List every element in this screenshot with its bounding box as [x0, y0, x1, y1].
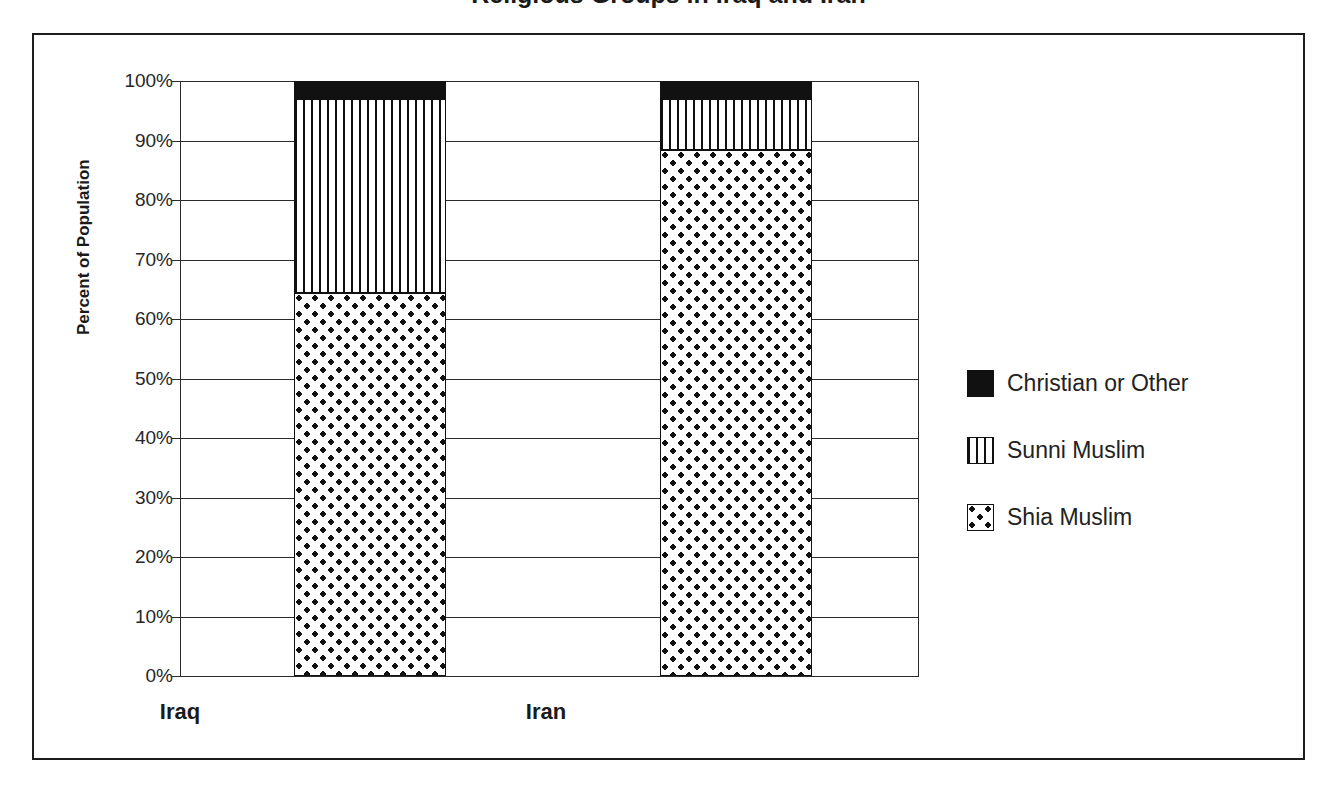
legend-swatch-dots-icon [967, 504, 994, 531]
y-tick-label: 40% [53, 427, 173, 449]
y-tick-label: 10% [53, 606, 173, 628]
legend: Christian or OtherSunni MuslimShia Musli… [967, 350, 1297, 551]
category-label-iran: Iran [426, 699, 666, 725]
tick-mark-80 [172, 200, 180, 201]
tick-mark-90 [172, 141, 180, 142]
y-tick-label: 60% [53, 308, 173, 330]
legend-item-sunni-muslim[interactable]: Sunni Muslim [967, 417, 1297, 484]
bar-segment-iran-shia-muslim[interactable] [660, 150, 812, 676]
tick-mark-0 [172, 676, 180, 677]
tick-mark-10 [172, 617, 180, 618]
legend-label: Christian or Other [1007, 370, 1189, 397]
y-tick-label: 100% [53, 70, 173, 92]
tick-mark-40 [172, 438, 180, 439]
tick-mark-50 [172, 379, 180, 380]
legend-swatch-solid-icon [967, 370, 994, 397]
tick-mark-30 [172, 498, 180, 499]
y-tick-label: 20% [53, 546, 173, 568]
bar-segment-iran-sunni-muslim[interactable] [660, 99, 812, 150]
bar-iraq[interactable] [294, 81, 446, 676]
y-tick-label: 80% [53, 189, 173, 211]
tick-mark-60 [172, 319, 180, 320]
y-tick-label: 70% [53, 249, 173, 271]
chart-frame: Percent of Population 100%90%80%70%60%50… [32, 33, 1305, 760]
y-tick-label: 90% [53, 130, 173, 152]
bar-segment-iraq-sunni-muslim[interactable] [294, 99, 446, 293]
chart-title-clip: Religious Groups in Iraq and Iran [0, 0, 1337, 12]
legend-item-christian-or-other[interactable]: Christian or Other [967, 350, 1297, 417]
legend-label: Shia Muslim [1007, 504, 1132, 531]
bar-segment-iraq-shia-muslim[interactable] [294, 293, 446, 676]
y-tick-label: 30% [53, 487, 173, 509]
plot-area: 100%90%80%70%60%50%40%30%20%10%0% [180, 81, 919, 676]
category-label-iraq: Iraq [60, 699, 300, 725]
bar-segment-iraq-christian-or-other[interactable] [294, 81, 446, 99]
bar-segment-iran-christian-or-other[interactable] [660, 81, 812, 99]
legend-label: Sunni Muslim [1007, 437, 1145, 464]
y-tick-label: 0% [53, 665, 173, 687]
gridline-0 [180, 676, 919, 677]
legend-item-shia-muslim[interactable]: Shia Muslim [967, 484, 1297, 551]
tick-mark-20 [172, 557, 180, 558]
tick-mark-100 [172, 81, 180, 82]
bar-iran[interactable] [660, 81, 812, 676]
y-tick-label: 50% [53, 368, 173, 390]
chart-title: Religious Groups in Iraq and Iran [0, 0, 1337, 9]
tick-mark-70 [172, 260, 180, 261]
legend-swatch-stripes-icon [967, 437, 994, 464]
